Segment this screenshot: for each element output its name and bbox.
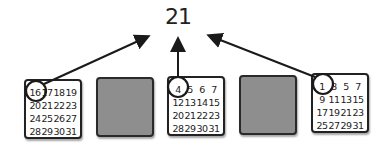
card-number: 23 xyxy=(65,100,77,112)
card-number: 28 xyxy=(172,123,184,135)
card-number: 11 xyxy=(328,94,340,106)
card-number: 6 xyxy=(196,84,208,96)
card-number: 5 xyxy=(340,81,352,93)
card-1-grid: 16 17 18 19 20 21 22 23 24 25 26 27 28 2… xyxy=(29,87,77,138)
number-card-5: 1 3 5 7 9 11 13 15 17 19 21 23 25 27 29 … xyxy=(311,73,369,133)
card-number: 14 xyxy=(196,97,208,109)
card-number: 23 xyxy=(352,107,364,119)
card-number: 31 xyxy=(65,126,77,138)
card-number: 18 xyxy=(53,87,65,99)
card-number: 7 xyxy=(352,81,364,93)
card-number: 4 xyxy=(172,84,184,96)
card-number: 23 xyxy=(208,110,220,122)
card-number: 21 xyxy=(184,110,196,122)
card-number: 15 xyxy=(352,94,364,106)
card-number: 9 xyxy=(316,94,328,106)
number-card-1: 16 17 18 19 20 21 22 23 24 25 26 27 28 2… xyxy=(24,79,82,139)
card-number: 19 xyxy=(328,107,340,119)
card-number: 29 xyxy=(41,126,53,138)
card-number: 22 xyxy=(53,100,65,112)
result-number: 21 xyxy=(158,4,198,29)
card-number: 31 xyxy=(352,120,364,132)
card-number: 17 xyxy=(41,87,53,99)
card-number: 3 xyxy=(328,81,340,93)
card-number: 28 xyxy=(29,126,41,138)
card-number: 27 xyxy=(328,120,340,132)
card-number: 30 xyxy=(196,123,208,135)
card-number: 16 xyxy=(29,87,41,99)
card-number: 20 xyxy=(172,110,184,122)
number-card-4-facedown xyxy=(239,75,297,135)
card-number: 22 xyxy=(196,110,208,122)
card-number: 25 xyxy=(316,120,328,132)
card-number: 26 xyxy=(53,113,65,125)
card-number: 29 xyxy=(340,120,352,132)
card-number: 19 xyxy=(65,87,77,99)
card-5-grid: 1 3 5 7 9 11 13 15 17 19 21 23 25 27 29 … xyxy=(316,81,364,132)
card-number: 15 xyxy=(208,97,220,109)
card-number: 7 xyxy=(208,84,220,96)
card-number: 17 xyxy=(316,107,328,119)
arrow-from-1 xyxy=(210,36,315,77)
card-number: 13 xyxy=(340,94,352,106)
card-number: 21 xyxy=(41,100,53,112)
number-card-2-facedown xyxy=(96,77,154,137)
card-number: 12 xyxy=(172,97,184,109)
card-number: 25 xyxy=(41,113,53,125)
card-number: 21 xyxy=(340,107,352,119)
card-number: 31 xyxy=(208,123,220,135)
card-number: 13 xyxy=(184,97,196,109)
card-number: 24 xyxy=(29,113,41,125)
card-number: 1 xyxy=(316,81,328,93)
card-number: 20 xyxy=(29,100,41,112)
card-number: 29 xyxy=(184,123,196,135)
card-3-grid: 4 5 6 7 12 13 14 15 20 21 22 23 28 29 30… xyxy=(172,84,220,135)
card-number: 30 xyxy=(53,126,65,138)
number-card-3: 4 5 6 7 12 13 14 15 20 21 22 23 28 29 30… xyxy=(167,76,225,136)
card-number: 5 xyxy=(184,84,196,96)
card-number: 27 xyxy=(65,113,77,125)
